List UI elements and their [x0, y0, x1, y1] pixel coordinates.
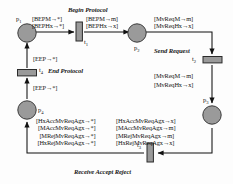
arc-label-line: [EEP→*]: [33, 55, 57, 62]
arc-label-line: [BEPM→*]: [32, 15, 64, 22]
arc-label-p3-t3: [HxAccMvReqAgx→x] [MAccMvReqAgx→m] [MRej…: [116, 117, 176, 147]
transition-t1[interactable]: [76, 22, 82, 41]
arc-label-line: [HxAccMvReqAgx→*]: [36, 117, 96, 124]
caption-send-request: Send Request: [154, 47, 190, 54]
arc-label-t4-p1: [EEP→*]: [33, 55, 57, 62]
arc-label-line: [MAccMvReqAgx→*]: [36, 124, 96, 131]
transition-t2[interactable]: [203, 57, 222, 63]
caption-begin-protocol: Begin Protocol: [68, 6, 107, 13]
caption-end-protocol: End Protocol: [48, 67, 83, 74]
place-label-p2: p2: [134, 44, 140, 53]
arc-label-t1-p2: [BEPM→m] [BEPHx→x]: [86, 15, 118, 30]
arc-label-line: [BEPHx→*]: [32, 22, 64, 29]
caption-receive-accept-reject: Receive Accept Reject: [74, 168, 131, 175]
arc-label-p4-t4: [EEP→*]: [33, 84, 57, 91]
place-p3[interactable]: [203, 106, 221, 124]
transition-label-t1: t1: [84, 38, 88, 47]
place-label-p1: p1: [16, 15, 22, 24]
arc-label-line: [MvReqHx→x]: [154, 22, 193, 29]
arc-label-line: [MAccMvReqAgx→m]: [116, 124, 176, 131]
transition-t4[interactable]: [18, 70, 37, 76]
place-p2[interactable]: [128, 24, 146, 42]
arc-label-line: [HxRejMvReqAgx→*]: [36, 139, 96, 146]
arc-label-line: [BEPHx→x]: [86, 22, 118, 29]
transition-label-t4: t4: [39, 66, 43, 75]
arc-label-line: [MRejMvReqAgx→m]: [116, 132, 176, 139]
arc-label-line: [MvReqHx→x]: [154, 81, 193, 88]
arc-label-t3-p4: [HxAccMvReqAgx→*] [MAccMvReqAgx→*] [MRej…: [36, 117, 96, 147]
arc-label-line: [EEP→*]: [33, 84, 57, 91]
transition-label-t2: t2: [192, 55, 196, 64]
place-label-p3: p3: [203, 96, 209, 105]
arc-label-line: [MvReqM→m]: [154, 15, 193, 22]
arc-label-line: [HxAccMvReqAgx→x]: [116, 117, 176, 124]
place-label-p4: p4: [38, 106, 44, 115]
arc-label-line: [MRejMvReqAgx→*]: [36, 132, 96, 139]
place-p4[interactable]: [18, 101, 36, 119]
arc-label-line: [BEPM→m]: [86, 15, 118, 22]
arc-label-p1-t1: [BEPM→*] [BEPHx→*]: [32, 15, 64, 30]
arc-label-line: [MvReqM→m]: [154, 72, 193, 79]
arc-label-p2-t2: [MvReqM→m] [MvReqHx→x]: [154, 15, 193, 30]
petri-net-diagram: p1 p2 p3 p4 t1 t2 t3 t4 Begin Protocol S…: [0, 0, 233, 184]
arc-label-line: [HxRejMvReqAgx→x]: [116, 139, 176, 146]
arc-label-t2-p3: [MvReqM→m] [MvReqHx→x]: [154, 72, 193, 89]
